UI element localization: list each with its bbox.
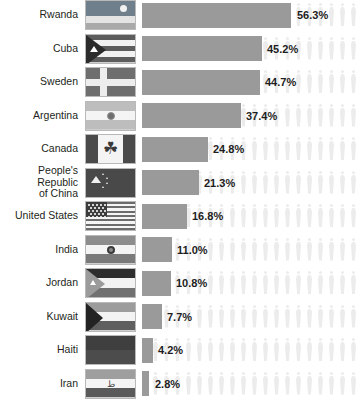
star-icon xyxy=(91,176,101,183)
value-bar xyxy=(142,204,187,229)
china-flag xyxy=(85,168,136,198)
value-bar xyxy=(142,103,241,128)
country-label: People's Republic of China xyxy=(0,165,78,200)
value-bar xyxy=(142,371,149,396)
value-bar xyxy=(142,271,171,296)
person-icon xyxy=(351,372,356,396)
country-label: Jordan xyxy=(0,277,78,289)
iran-flag: ط xyxy=(85,369,136,399)
value-label: 11.0% xyxy=(177,244,208,256)
country-label: Haiti xyxy=(0,344,78,356)
country-label: Iran xyxy=(0,378,78,390)
value-label: 21.3% xyxy=(204,177,235,189)
table-row: India 11.0% xyxy=(0,235,344,265)
value-label: 45.2% xyxy=(267,43,298,55)
table-row: Kuwait 7.7% xyxy=(0,302,344,332)
value-bar xyxy=(142,237,172,262)
jordan-flag xyxy=(85,268,136,298)
country-label: Cuba xyxy=(0,43,78,55)
person-icon xyxy=(351,104,356,128)
person-icon xyxy=(351,338,356,362)
table-row: Haiti 4.2% xyxy=(0,335,344,365)
value-bar xyxy=(142,70,260,95)
person-icon xyxy=(351,271,356,295)
maple-leaf-icon: ☘ xyxy=(103,140,118,157)
country-label: Canada xyxy=(0,143,78,155)
table-row: Canada ☘ 24.8% xyxy=(0,134,344,164)
value-label: 7.7% xyxy=(167,311,192,323)
value-label: 4.2% xyxy=(158,344,183,356)
sun-icon xyxy=(107,112,115,120)
country-label: Argentina xyxy=(0,110,78,122)
table-row: Iran ط 2.8% xyxy=(0,369,344,399)
value-label: 10.8% xyxy=(176,277,207,289)
haiti-flag xyxy=(85,335,136,365)
chakra-icon xyxy=(107,246,115,254)
person-icon xyxy=(351,37,356,61)
country-label: India xyxy=(0,244,78,256)
united-states-flag xyxy=(85,201,136,231)
country-label: United States xyxy=(0,210,78,222)
country-label: Sweden xyxy=(0,76,78,88)
star-icon xyxy=(90,46,98,52)
table-row: Rwanda 56.3% xyxy=(0,0,344,30)
value-bar xyxy=(142,3,291,28)
argentina-flag xyxy=(85,101,136,131)
person-icon xyxy=(351,70,356,94)
table-row: Sweden 44.7% xyxy=(0,67,344,97)
table-row: Cuba 45.2% xyxy=(0,34,344,64)
value-bar xyxy=(142,36,262,61)
sweden-flag xyxy=(85,67,136,97)
value-bar xyxy=(142,338,153,363)
value-label: 37.4% xyxy=(246,110,277,122)
person-icon xyxy=(351,137,356,161)
person-icon xyxy=(351,171,356,195)
person-icon xyxy=(351,238,356,262)
country-label: Rwanda xyxy=(0,9,78,21)
value-label: 56.3% xyxy=(297,9,328,21)
table-row: United States xyxy=(0,201,344,231)
rwanda-flag xyxy=(85,0,136,30)
value-label: 44.7% xyxy=(265,76,296,88)
person-icon xyxy=(351,3,356,27)
kuwait-flag xyxy=(85,302,136,332)
value-bar xyxy=(142,137,208,162)
value-label: 24.8% xyxy=(213,143,244,155)
sun-icon xyxy=(120,5,127,12)
star-icon xyxy=(90,280,96,285)
value-bar xyxy=(142,304,162,329)
person-icon xyxy=(351,204,356,228)
country-label: Kuwait xyxy=(0,311,78,323)
value-bar xyxy=(142,170,199,195)
value-label: 2.8% xyxy=(155,378,180,390)
canada-flag: ☘ xyxy=(85,134,136,164)
emblem-icon: ط xyxy=(107,379,115,388)
table-row: People's Republic of China 21.3% xyxy=(0,168,344,198)
cuba-flag xyxy=(85,34,136,64)
value-label: 16.8% xyxy=(192,210,223,222)
india-flag xyxy=(85,235,136,265)
person-icon xyxy=(351,305,356,329)
table-row: Jordan 10.8% xyxy=(0,268,344,298)
table-row: Argentina 37.4% xyxy=(0,101,344,131)
